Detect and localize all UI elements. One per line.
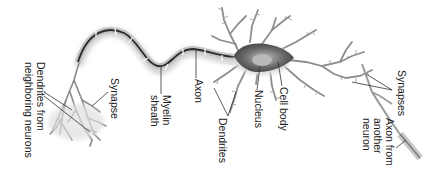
label-dendrites-from-neighboring-neurons: Dendrites from neighboring neurons <box>23 62 46 158</box>
label-synapse: Synapse <box>109 78 121 119</box>
nucleus <box>252 54 272 66</box>
label-cell-body: Cell body <box>278 87 290 131</box>
axon-terminal-shadow <box>48 104 104 140</box>
neuron-diagram: Dendrites from neighboring neurons Synap… <box>0 0 436 177</box>
label-synapses: Synapses <box>396 70 408 116</box>
myelin-sheath <box>78 28 240 70</box>
label-myelin-sheath: Myelin sheath <box>149 95 172 127</box>
label-nucleus: Nucleus <box>253 90 265 128</box>
label-axon-from-another-neuron: Axon from another neuron <box>361 118 396 166</box>
label-axon: Axon <box>193 79 205 103</box>
label-dendrites: Dendrites <box>217 118 229 163</box>
